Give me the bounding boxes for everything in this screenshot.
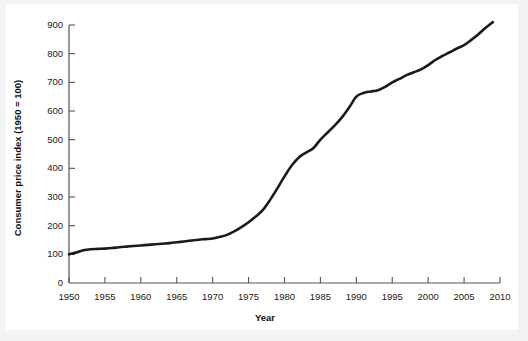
y-tick-label: 900 [29, 20, 63, 30]
x-tick-label: 1965 [157, 292, 197, 302]
x-tick-label: 1995 [372, 292, 412, 302]
x-tick-label: 2005 [444, 292, 484, 302]
x-tick-label: 1980 [265, 292, 305, 302]
axis-lines [69, 25, 500, 283]
y-tick-label: 800 [29, 49, 63, 59]
x-axis-title: Year [255, 307, 275, 325]
y-axis-title: Consumer price index (1950 = 100) [10, 55, 24, 260]
cpi-line-series [69, 22, 493, 254]
x-tick-label: 2010 [480, 292, 520, 302]
x-tick-label: 2000 [408, 292, 448, 302]
y-tick-label: 600 [29, 106, 63, 116]
y-tick-label: 100 [29, 249, 63, 259]
y-tick-label: 0 [29, 278, 63, 288]
chart-canvas [0, 0, 528, 341]
chart-figure: 0100200300400500600700800900 19501955196… [0, 0, 528, 341]
x-axis-title-text: Year [255, 312, 275, 323]
x-tick-label: 1950 [49, 292, 89, 302]
data-series-group [69, 22, 493, 254]
y-tick-label: 300 [29, 192, 63, 202]
x-tick-label: 1955 [85, 292, 125, 302]
y-tick-label: 500 [29, 135, 63, 145]
y-axis-ticks [69, 25, 75, 254]
x-tick-label: 1985 [300, 292, 340, 302]
y-tick-label: 200 [29, 221, 63, 231]
x-tick-label: 1990 [336, 292, 376, 302]
y-axis-title-text: Consumer price index (1950 = 100) [12, 79, 23, 236]
x-tick-label: 1960 [121, 292, 161, 302]
x-tick-label: 1970 [193, 292, 233, 302]
y-tick-label: 400 [29, 163, 63, 173]
x-axis-ticks [69, 277, 500, 283]
x-tick-label: 1975 [229, 292, 269, 302]
y-tick-label: 700 [29, 77, 63, 87]
